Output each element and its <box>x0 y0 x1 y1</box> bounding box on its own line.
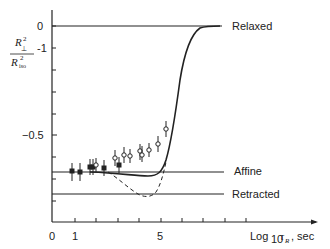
open-points <box>94 121 168 172</box>
affine-label: Affine <box>234 165 262 177</box>
svg-text:R: R <box>10 56 18 68</box>
x-axis-arrow-icon <box>311 220 318 225</box>
svg-text:2: 2 <box>23 35 27 43</box>
svg-text:, sec: , sec <box>291 230 315 242</box>
chart-canvas: 0 -1 −0.5 0 1 5 R 2 ⊥ R 2 iso Log 10 τ R… <box>0 0 330 249</box>
y-ticks <box>52 26 57 201</box>
y-tick-1: -1 <box>37 42 47 54</box>
x-tick-5: 5 <box>157 230 163 242</box>
y-axis-label: R 2 ⊥ R 2 iso <box>10 35 34 69</box>
svg-text:iso: iso <box>19 63 26 69</box>
retracted-label: Retracted <box>232 188 280 200</box>
y-tick-05: −0.5 <box>22 129 44 141</box>
theory-solid-curve <box>90 26 220 176</box>
x-tick-0: 0 <box>49 230 55 242</box>
svg-text:⊥: ⊥ <box>21 45 27 53</box>
svg-text:2: 2 <box>20 54 24 62</box>
svg-text:Log: Log <box>250 230 268 242</box>
x-tick-1: 1 <box>72 230 78 242</box>
y-tick-0: 0 <box>37 20 43 32</box>
x-axis-label: Log 10 τ R , sec <box>250 230 315 245</box>
svg-text:R: R <box>284 237 290 245</box>
relaxed-label: Relaxed <box>232 20 272 32</box>
